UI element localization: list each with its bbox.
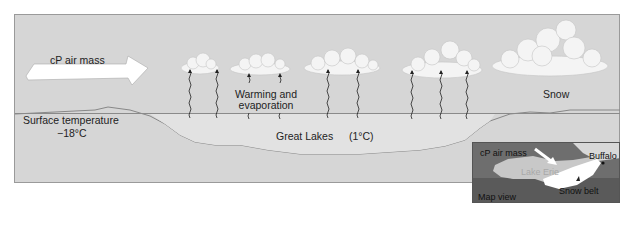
map-air-mass-label: cP air mass	[480, 148, 527, 158]
inset-map: cP air mass Lake Erie Buffalo Snow belt …	[472, 142, 620, 203]
surface-temperature-value: −18°C	[57, 127, 87, 139]
snow-label: Snow	[543, 88, 569, 100]
evaporation-label: evaporation	[234, 99, 298, 111]
map-view-caption: Map view	[478, 192, 516, 202]
surface-temperature-label: Surface temperature	[23, 114, 119, 126]
map-lake-label: Lake Erie	[521, 167, 559, 177]
map-snow-belt-label: Snow belt	[559, 186, 599, 196]
cloud-icon	[181, 20, 608, 78]
lake-temperature-label: (1°C)	[349, 130, 374, 142]
great-lakes-label: Great Lakes	[276, 130, 333, 142]
buffalo-marker	[601, 161, 604, 164]
map-city-label: Buffalo	[589, 151, 617, 161]
air-mass-label: cP air mass	[50, 54, 105, 66]
